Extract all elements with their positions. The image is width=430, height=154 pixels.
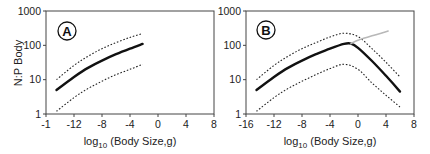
series-fit-line [257,43,401,91]
x-tick-label: -8 [297,118,306,130]
panel-b: 1101001000 -16-12-8-4048 B log10 (Body S… [218,5,417,151]
y-axis-ticks-b: 1101001000 [218,5,246,120]
x-tick-label: -16 [238,118,253,130]
x-axis-title-prefix: log [84,135,99,147]
panel-label-a: A [58,22,76,40]
y-tick-label: 100 [223,39,241,51]
x-tick-label: -12 [66,118,81,130]
x-tick-label: -4 [125,118,134,130]
x-axis-title-suffix: (Body Size,g) [307,135,376,147]
y-tick-label: 1 [35,108,41,120]
series-group-b [257,31,401,111]
x-tick-label: 8 [411,118,417,130]
series-upper-bound-line [57,34,143,80]
panel-letter-a: A [62,24,72,39]
x-tick-label: -4 [325,118,334,130]
x-tick-label: -1 [41,118,50,130]
x-tick-label: 0 [355,118,361,130]
x-axis-title-suffix: (Body Size,g) [107,135,176,147]
series-lower-bound-line [57,64,143,111]
y-tick-label: 10 [29,73,41,85]
x-axis-title-prefix: log [284,135,299,147]
y-axis-title: N:P Body [12,39,24,86]
series-lower-bound-line [257,64,401,111]
x-tick-label: -8 [97,118,106,130]
x-tick-label: -12 [266,118,281,130]
series-group-a [57,34,143,112]
panel-label-b: B [257,21,275,39]
x-axis-title-a: log10 (Body Size,g) [84,135,177,150]
y-tick-label: 100 [23,39,41,51]
y-tick-label: 1000 [18,5,42,17]
x-tick-label: 4 [183,118,189,130]
figure-canvas: 1101001000 -1-12-8-4048 A N:P Body log10… [0,0,430,154]
series-fit-line [57,44,143,90]
series-upper-bound-line [257,33,401,79]
panel-letter-b: B [261,23,270,38]
y-tick-label: 1000 [218,5,242,17]
x-tick-label: 0 [155,118,161,130]
x-tick-label: 4 [383,118,389,130]
series-extrapolation-line [351,31,388,43]
x-axis-title-b: log10 (Body Size,g) [284,135,377,150]
x-tick-label: 8 [211,118,217,130]
x-axis-ticks-b: -16-12-8-4048 [238,114,417,130]
x-axis-ticks-a: -1-12-8-4048 [41,114,217,130]
panel-a: 1101001000 -1-12-8-4048 A N:P Body log10… [12,5,217,151]
y-tick-label: 10 [229,73,241,85]
